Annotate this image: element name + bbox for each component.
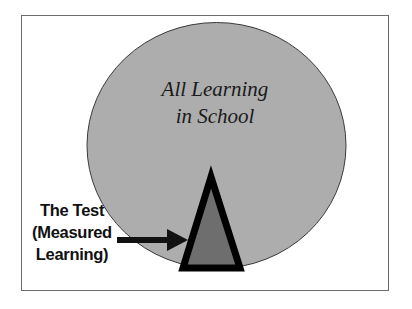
- test-label-line3: Learning): [26, 243, 118, 265]
- circle-label-line2: in School: [140, 103, 290, 130]
- diagram-stage: All Learning in School The Test (Measure…: [0, 0, 412, 309]
- test-callout-label: The Test (Measured Learning): [26, 199, 118, 265]
- circle-label: All Learning in School: [140, 76, 290, 130]
- circle-label-line1: All Learning: [140, 76, 290, 103]
- test-label-line1: The Test: [26, 199, 118, 221]
- test-label-line2: (Measured: [26, 221, 118, 243]
